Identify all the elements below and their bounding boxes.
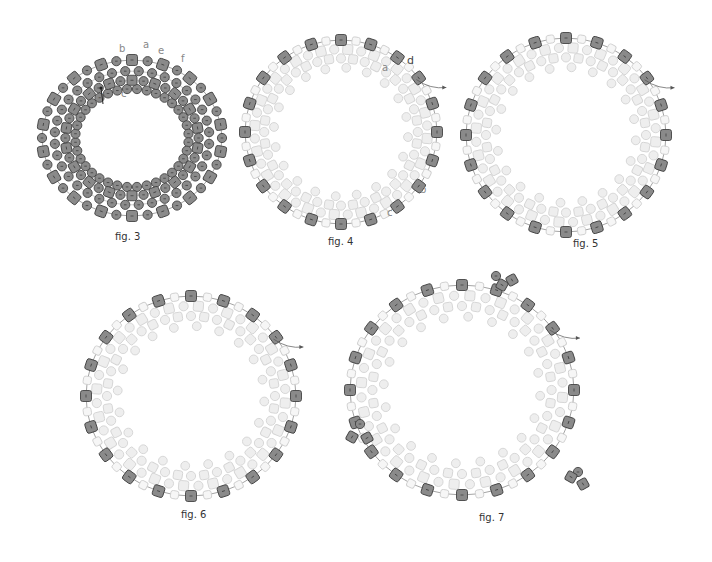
round-bead-light — [372, 411, 381, 420]
round-bead-light — [510, 305, 519, 314]
square-bead-light — [541, 334, 555, 348]
square-bead-light — [389, 455, 403, 469]
square-bead-light — [347, 402, 356, 411]
round-bead-light — [465, 480, 474, 489]
square-bead-light — [508, 464, 522, 478]
round-bead-light — [392, 314, 401, 323]
round-bead-light — [398, 338, 407, 347]
round-bead-light — [457, 301, 466, 310]
round-bead-light — [543, 411, 552, 420]
square-bead-light — [465, 290, 476, 301]
square-bead-light — [545, 372, 555, 382]
figure-7 — [0, 0, 712, 562]
round-bead-light — [359, 363, 368, 372]
square-bead-light — [362, 347, 375, 360]
round-bead-light — [476, 457, 485, 466]
round-bead-light — [434, 477, 443, 486]
round-bead-light — [381, 403, 390, 412]
square-bead-light — [357, 337, 368, 348]
square-bead-light — [358, 406, 370, 418]
round-bead-light — [379, 380, 388, 389]
round-bead-light — [523, 457, 532, 466]
square-bead-light — [568, 369, 577, 378]
round-bead-light — [530, 414, 539, 423]
square-bead-light — [475, 282, 484, 291]
square-bead-light — [440, 489, 449, 498]
round-bead-light — [509, 330, 518, 339]
square-bead-light — [556, 432, 567, 443]
square-bead-light — [536, 422, 548, 434]
round-bead-light — [385, 435, 394, 444]
square-bead-light — [471, 468, 481, 478]
round-bead-light — [485, 306, 494, 315]
caption-fig7: fig. 7 — [479, 512, 504, 523]
square-bead-light — [406, 478, 417, 489]
square-bead-light — [440, 282, 449, 291]
round-bead-light — [488, 318, 497, 327]
round-bead-light — [405, 453, 414, 462]
square-bead-light — [532, 444, 546, 458]
square-bead-light — [376, 422, 388, 434]
round-bead-light — [451, 459, 460, 468]
square-bead-light — [392, 443, 405, 456]
round-bead-light — [405, 317, 414, 326]
round-bead-light — [510, 453, 519, 462]
round-bead-light — [536, 391, 545, 400]
arrow-head-icon — [576, 336, 580, 340]
square-bead-light — [519, 443, 532, 456]
round-bead-light — [385, 357, 394, 366]
round-bead-light — [417, 323, 426, 332]
round-bead-light — [364, 422, 373, 431]
square-bead-light — [415, 309, 427, 321]
round-bead-light — [485, 465, 494, 474]
square-bead-light — [507, 291, 518, 302]
square-bead-light — [392, 324, 405, 337]
round-bead-light — [430, 306, 439, 315]
round-bead-light — [555, 407, 564, 416]
square-bead-light — [494, 296, 507, 309]
round-bead-light — [419, 298, 428, 307]
square-bead-light — [417, 471, 430, 484]
round-bead-light — [464, 312, 473, 321]
square-bead-light — [507, 478, 518, 489]
square-bead-light — [497, 309, 509, 321]
round-bead-light — [543, 359, 552, 368]
square-bead-light — [545, 398, 555, 408]
round-bead-light — [368, 385, 377, 394]
square-bead-light — [406, 291, 417, 302]
square-bead-light — [376, 346, 388, 358]
round-bead-light — [510, 317, 519, 326]
round-bead-light — [534, 368, 543, 377]
round-bead-light — [543, 435, 552, 444]
round-bead-light — [534, 324, 543, 333]
square-bead-light — [557, 392, 568, 403]
square-bead-light — [356, 377, 367, 388]
round-bead-light — [551, 349, 560, 358]
square-bead-light — [520, 311, 534, 325]
round-bead-light — [428, 454, 437, 463]
round-bead-light — [499, 448, 508, 457]
square-bead-light — [549, 420, 562, 433]
round-bead-light — [430, 465, 439, 474]
square-bead-light — [449, 479, 460, 490]
round-bead-light — [381, 447, 390, 456]
square-bead-light — [415, 459, 427, 471]
round-bead-light — [405, 466, 414, 475]
round-bead-light — [391, 424, 400, 433]
square-bead-light — [368, 372, 378, 382]
round-bead-light — [524, 347, 533, 356]
round-bead-light — [558, 378, 567, 387]
round-bead-light — [530, 336, 539, 345]
round-bead-light — [372, 359, 381, 368]
square-bead-light — [443, 302, 453, 312]
square-bead-light — [480, 476, 492, 488]
round-bead-light — [407, 441, 416, 450]
square-bead-light — [554, 362, 566, 374]
square-bead-light — [443, 468, 453, 478]
round-bead-light — [496, 473, 505, 482]
square-bead-light — [497, 459, 509, 471]
round-bead-light — [547, 385, 556, 394]
square-bead-light — [519, 324, 532, 337]
round-bead-light — [481, 294, 490, 303]
square-bead-light — [568, 402, 577, 411]
